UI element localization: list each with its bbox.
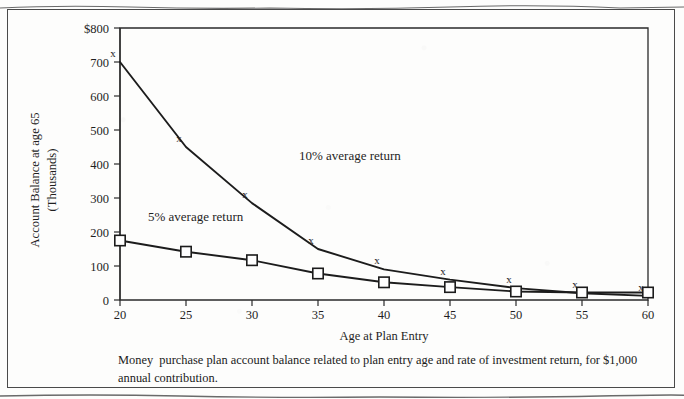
y-tick-label: 600: [90, 90, 109, 104]
x-axis-title: Age at Plan Entry: [339, 329, 429, 343]
y-tick-label: 100: [90, 260, 109, 274]
annotation-10-percent: 10% average return: [299, 148, 401, 163]
data-point-marker-square: [115, 235, 125, 245]
data-point-marker-square: [313, 268, 323, 278]
series-10-percent-line: [120, 62, 648, 296]
data-point-marker-x: x: [176, 132, 182, 144]
plot-frame: [120, 28, 648, 300]
series-line: [120, 62, 648, 296]
figure-container: Account Balance at age 65 (Thousands) 01…: [0, 0, 684, 399]
x-tick-label: 35: [312, 308, 325, 322]
data-point-marker-x: x: [308, 234, 314, 246]
x-tick-label: 55: [576, 308, 589, 322]
y-tick-label: $800: [84, 22, 109, 36]
data-point-marker-x: x: [374, 254, 380, 266]
data-point-marker-square: [379, 277, 389, 287]
y-tick-label: 400: [90, 158, 109, 172]
data-point-marker-x: x: [440, 265, 446, 277]
data-point-marker-square: [247, 255, 257, 265]
annotation-5-percent: 5% average return: [148, 209, 244, 224]
x-axis-ticks: [120, 300, 648, 306]
y-axis-ticks: [114, 28, 120, 300]
data-point-marker-square: [445, 282, 455, 292]
data-point-marker-square: [181, 247, 191, 257]
y-tick-label: 500: [90, 124, 109, 138]
y-tick-label: 300: [90, 192, 109, 206]
x-tick-label: 30: [246, 308, 259, 322]
data-point-marker-square: [643, 287, 653, 297]
y-tick-label: 700: [90, 56, 109, 70]
x-tick-label: 60: [642, 308, 655, 322]
x-tick-label: 20: [114, 308, 127, 322]
y-tick-label: 0: [103, 294, 109, 308]
data-point-marker-x: x: [110, 47, 116, 59]
x-axis-tick-labels: 202530354045505560: [114, 308, 655, 322]
y-tick-label: 200: [90, 226, 109, 240]
x-tick-label: 40: [378, 308, 391, 322]
x-tick-label: 50: [510, 308, 523, 322]
chart-plot: 0100200300400500600700$800 2025303540455…: [0, 0, 684, 399]
figure-caption: Money purchase plan account balance rela…: [118, 352, 638, 388]
data-point-marker-x: x: [506, 273, 512, 285]
y-axis-tick-labels: 0100200300400500600700$800: [84, 22, 109, 308]
data-point-marker-x: x: [242, 188, 248, 200]
data-point-marker-square: [511, 286, 521, 296]
data-point-marker-square: [577, 287, 587, 297]
x-tick-label: 25: [180, 308, 193, 322]
x-tick-label: 45: [444, 308, 457, 322]
